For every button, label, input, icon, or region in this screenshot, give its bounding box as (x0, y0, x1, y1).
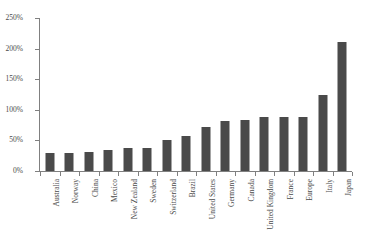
bar-series (40, 18, 352, 171)
x-axis-tick-label: Japan (345, 162, 353, 179)
x-axis-tick-label-text: Italy (326, 179, 334, 193)
x-axis-tick-label-text: Mexico (111, 179, 119, 202)
x-axis-tick-label-text: Switzerland (170, 179, 178, 215)
x-axis-tick-label-text: Canada (248, 179, 256, 202)
x-axis-tick-label: Europe (306, 157, 314, 179)
x-axis-tick-label: Germany (228, 151, 236, 179)
bar-slot (99, 18, 119, 171)
bar-slot (138, 18, 158, 171)
x-axis-tick-label: China (92, 161, 100, 179)
x-axis-tick-label-text: United Kingdom (267, 179, 275, 230)
bar-slot (216, 18, 236, 171)
y-axis-tick-label: 150% (0, 75, 23, 83)
x-axis-tick-label: Switzerland (170, 143, 178, 179)
x-axis-tick-label: United Kingdom (267, 128, 275, 179)
x-axis-tick-label-text: China (92, 179, 100, 197)
bar-slot (274, 18, 294, 171)
x-axis-tick-label-text: Germany (228, 179, 236, 207)
bar[interactable] (338, 42, 347, 171)
x-axis-tick-label: Italy (326, 165, 334, 179)
y-axis-tick-label: 250% (0, 14, 23, 22)
y-axis-tick (35, 49, 39, 50)
bar-slot (294, 18, 314, 171)
y-axis-tick (35, 140, 39, 141)
bar[interactable] (318, 95, 327, 171)
x-axis-tick-label-text: Norway (72, 179, 80, 203)
bar-slot (40, 18, 60, 171)
x-axis-tick-label: Mexico (111, 156, 119, 179)
plot-area: 0%50%100%150%200%250% AustraliaNorwayChi… (39, 18, 352, 171)
y-axis-tick-label: 100% (0, 106, 23, 114)
bar-slot (313, 18, 333, 171)
bar-slot (60, 18, 80, 171)
y-axis-tick (35, 171, 39, 172)
x-axis-tick-label-text: Sweden (150, 179, 158, 203)
x-axis-tick-label-text: France (287, 179, 295, 199)
y-axis-tick-label: 0% (0, 167, 23, 175)
y-axis-tick (35, 110, 39, 111)
x-axis-tick-label: New Zealand (131, 139, 139, 179)
bar-slot (235, 18, 255, 171)
x-axis-tick-label: Sweden (150, 155, 158, 179)
bar-slot (177, 18, 197, 171)
x-axis-tick-label: United States (209, 139, 217, 179)
x-axis-tick-label-text: United States (209, 179, 217, 219)
x-axis-tick-label-text: Europe (306, 179, 314, 201)
x-axis-tick-label: Canada (248, 157, 256, 180)
chart-page: 0%50%100%150%200%250% AustraliaNorwayChi… (0, 0, 365, 245)
bar-slot (333, 18, 353, 171)
bar-slot (79, 18, 99, 171)
x-axis-tick-label: Norway (72, 155, 80, 179)
x-axis-tick-label-text: Japan (345, 179, 353, 196)
chart-title-strip (0, 0, 365, 6)
x-axis-tick-label: Australia (53, 152, 61, 180)
x-axis-tick (40, 172, 41, 176)
x-axis-tick-label-text: Brazil (189, 179, 197, 197)
x-axis-tick-label-text: Australia (53, 179, 61, 207)
x-axis-tick-label: Brazil (189, 161, 197, 179)
y-axis-tick (35, 79, 39, 80)
y-axis-tick-label: 200% (0, 45, 23, 53)
y-axis-tick-label: 50% (0, 136, 23, 144)
y-axis-tick (35, 18, 39, 19)
x-axis-tick-label-text: New Zealand (131, 179, 139, 219)
x-axis-tick-label: France (287, 159, 295, 179)
